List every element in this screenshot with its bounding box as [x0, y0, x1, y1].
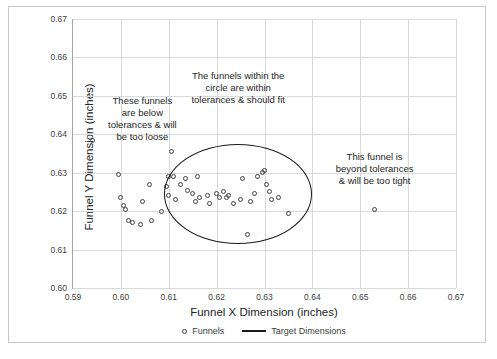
data-point	[149, 218, 154, 223]
x-axis-tick-label: 0.66	[400, 292, 417, 302]
data-point	[159, 209, 164, 214]
x-axis-tick-label: 0.59	[65, 292, 82, 302]
y-axis-tick-label: 0.65	[50, 91, 67, 101]
x-axis-tick-label: 0.64	[304, 292, 321, 302]
y-axis-tick-label: 0.66	[50, 52, 67, 62]
gridline-vertical	[456, 19, 457, 288]
x-axis-title: Funnel X Dimension (inches)	[72, 306, 456, 318]
gridline-horizontal	[73, 288, 456, 289]
y-axis-tick-label: 0.64	[50, 129, 67, 139]
legend-entry-target-dimensions: Target Dimensions	[242, 326, 346, 336]
data-point	[118, 195, 123, 200]
y-axis-tick-label: 0.62	[50, 206, 67, 216]
chart-container: Funnel Y Dimension (inches) 0.600.610.62…	[8, 6, 486, 343]
data-point	[123, 207, 128, 212]
gridline-vertical	[312, 19, 313, 288]
data-point	[130, 220, 135, 225]
x-axis-tick-label: 0.67	[448, 292, 465, 302]
x-axis-tick-label: 0.61	[160, 292, 177, 302]
annotation-within-tolerance: The funnels within the circle are within…	[191, 70, 284, 106]
x-axis-tick-label: 0.62	[208, 292, 225, 302]
x-axis-tick-label: 0.65	[352, 292, 369, 302]
y-axis-tick-label: 0.63	[50, 168, 67, 178]
data-point	[372, 207, 377, 212]
legend-label-target-dimensions: Target Dimensions	[271, 326, 346, 336]
chart-legend: Funnels Target Dimensions	[72, 326, 456, 336]
line-icon	[242, 330, 266, 332]
x-axis-tick-label: 0.63	[256, 292, 273, 302]
data-point	[147, 182, 152, 187]
legend-entry-funnels: Funnels	[182, 326, 224, 336]
y-axis-tick-label: 0.67	[50, 14, 67, 24]
x-axis-tick-label: 0.60	[113, 292, 130, 302]
legend-label-funnels: Funnels	[192, 326, 224, 336]
data-point	[140, 199, 145, 204]
annotation-too-loose: These funnels are below tolerances & wil…	[108, 95, 177, 143]
open-circle-icon	[182, 329, 187, 334]
y-axis-tick-label: 0.61	[50, 245, 67, 255]
gridline-vertical	[121, 19, 122, 288]
target-dimensions-circle	[164, 144, 312, 244]
annotation-too-tight: This funnel is beyond tolerances & will …	[336, 151, 414, 187]
data-point	[90, 138, 95, 143]
data-point	[138, 222, 143, 227]
plot-area: 0.600.610.620.630.640.650.660.670.590.60…	[72, 19, 456, 289]
data-point	[169, 149, 174, 154]
